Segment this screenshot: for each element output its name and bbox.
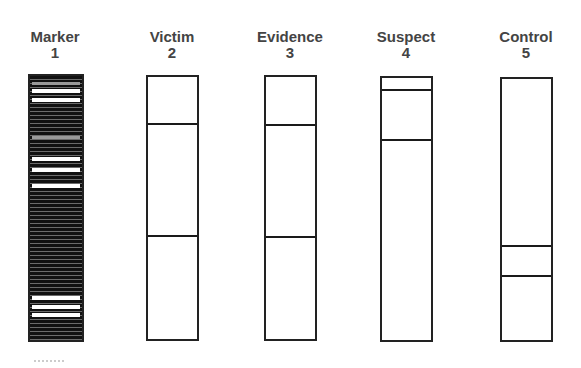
ladder-gap — [32, 136, 80, 139]
lane-name: Control — [499, 28, 552, 45]
lane-name: Victim — [150, 28, 195, 45]
lane-name: Evidence — [257, 28, 323, 45]
ladder-gap — [32, 313, 80, 317]
dna-band — [266, 236, 315, 238]
ladder-gap — [32, 82, 80, 85]
ladder-gap — [32, 98, 80, 102]
lane-number: 1 — [5, 45, 105, 61]
dna-band — [148, 123, 197, 125]
lane-number: 3 — [240, 45, 340, 61]
lane-name: Suspect — [377, 28, 435, 45]
lane-label-evidence: Evidence 3 — [240, 29, 340, 61]
ladder-gap — [32, 296, 80, 300]
ladder-gap — [32, 184, 80, 188]
ladder-gap — [32, 157, 80, 161]
dna-band — [502, 245, 551, 247]
lane-label-control: Control 5 — [476, 29, 576, 61]
dna-band — [266, 124, 315, 126]
lane-evidence — [264, 75, 317, 341]
dna-band — [382, 139, 431, 141]
lane-marker — [28, 74, 84, 342]
lane-control — [500, 77, 553, 342]
ladder-gap — [32, 305, 80, 309]
ladder-gap — [32, 89, 80, 93]
lane-label-marker: Marker 1 — [5, 29, 105, 61]
lane-number: 2 — [122, 45, 222, 61]
lane-name: Marker — [30, 28, 79, 45]
lane-label-victim: Victim 2 — [122, 29, 222, 61]
dna-band — [148, 235, 197, 237]
lane-label-suspect: Suspect 4 — [356, 29, 456, 61]
lane-suspect — [380, 76, 433, 342]
ladder-gap — [32, 168, 80, 172]
lane-victim — [146, 75, 199, 341]
lane-number: 5 — [476, 45, 576, 61]
faint-mark — [34, 360, 64, 364]
dna-band — [502, 275, 551, 277]
dna-band — [382, 89, 431, 91]
lane-number: 4 — [356, 45, 456, 61]
